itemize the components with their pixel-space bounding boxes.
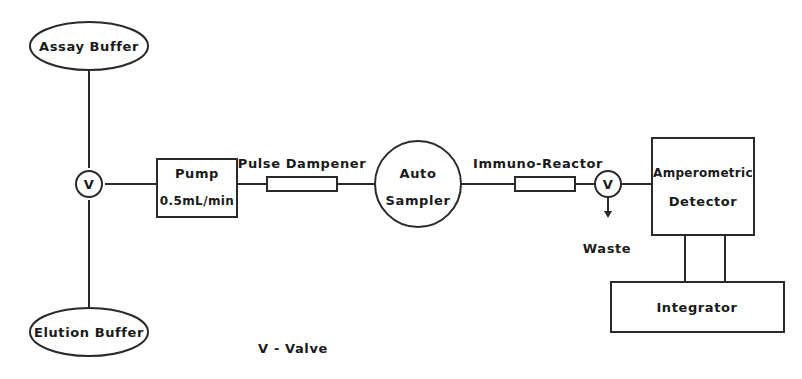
immuno-reactor-node bbox=[515, 177, 575, 191]
pulse-dampener-node bbox=[267, 177, 337, 191]
waste-label: Waste bbox=[583, 241, 631, 256]
legend-text: V - Valve bbox=[258, 341, 328, 356]
auto-sampler-label-line2: Sampler bbox=[386, 193, 451, 208]
elution-buffer-label: Elution Buffer bbox=[34, 325, 144, 340]
immuno-reactor-label: Immuno-Reactor bbox=[473, 156, 603, 171]
waste-arrow-icon bbox=[604, 211, 612, 218]
valve-2-label: V bbox=[603, 177, 614, 192]
detector-label-line1: Amperometric bbox=[653, 166, 753, 180]
flow-diagram bbox=[0, 0, 802, 379]
pump-rate-label: 0.5mL/min bbox=[160, 194, 235, 208]
assay-buffer-label: Assay Buffer bbox=[39, 39, 139, 54]
detector-node bbox=[652, 138, 754, 235]
auto-sampler-node bbox=[375, 141, 461, 227]
pump-label: Pump bbox=[175, 166, 219, 181]
auto-sampler-label-line1: Auto bbox=[400, 166, 437, 181]
detector-label-line2: Detector bbox=[669, 194, 738, 209]
valve-1-label: V bbox=[84, 177, 95, 192]
integrator-label: Integrator bbox=[656, 300, 737, 315]
pulse-dampener-label: Pulse Dampener bbox=[238, 156, 366, 171]
